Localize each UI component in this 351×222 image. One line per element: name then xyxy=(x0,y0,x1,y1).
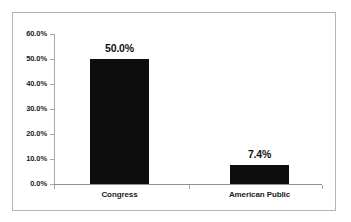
value-axis-line xyxy=(54,34,55,185)
bar-value-label-american-public: 7.4% xyxy=(230,149,289,160)
x-axis-tick-start xyxy=(54,185,55,189)
y-axis-label-30: 30.0% xyxy=(7,105,47,113)
y-axis-label-60: 60.0% xyxy=(7,30,47,38)
y-axis-label-10: 10.0% xyxy=(7,155,47,163)
x-axis-tick-middle xyxy=(189,185,190,189)
y-axis-tick-40 xyxy=(50,84,54,85)
bar-congress[interactable] xyxy=(90,59,149,184)
y-axis-tick-20 xyxy=(50,134,54,135)
y-axis-tick-30 xyxy=(50,109,54,110)
y-axis-label-50: 50.0% xyxy=(7,55,47,63)
x-axis-tick-end xyxy=(322,185,323,189)
bar-american-public[interactable] xyxy=(230,165,289,184)
y-axis-label-40: 40.0% xyxy=(7,80,47,88)
y-axis-tick-10 xyxy=(50,159,54,160)
y-axis-label-0: 0.0% xyxy=(7,180,47,188)
chart-container: 60.0% 50.0% 40.0% 30.0% 20.0% 10.0% 0.0%… xyxy=(12,12,336,211)
y-axis-tick-50 xyxy=(50,59,54,60)
y-axis-tick-60 xyxy=(50,34,54,35)
bar-value-label-congress: 50.0% xyxy=(90,43,149,54)
y-axis-label-20: 20.0% xyxy=(7,130,47,138)
category-axis-line xyxy=(54,184,322,185)
category-label-american-public: American Public xyxy=(215,191,304,199)
plot-area: 60.0% 50.0% 40.0% 30.0% 20.0% 10.0% 0.0%… xyxy=(13,13,335,210)
category-label-congress: Congress xyxy=(75,191,164,199)
